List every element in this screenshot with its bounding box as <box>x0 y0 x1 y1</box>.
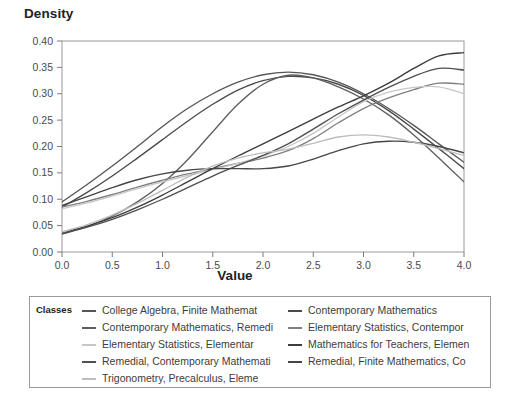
series-line <box>62 53 464 233</box>
series-line <box>62 135 464 232</box>
legend-item[interactable]: Contemporary Mathematics <box>288 302 488 319</box>
legend-item-label: Trigonometry, Precalculus, Eleme <box>102 372 258 385</box>
series-line <box>62 86 464 208</box>
legend-column-right: Contemporary MathematicsElementary Stati… <box>288 302 488 370</box>
legend-item[interactable]: Remedial, Finite Mathematics, Co <box>288 353 488 370</box>
legend-line-swatch <box>82 310 96 312</box>
legend-item-label: Elementary Statistics, Contempor <box>308 321 464 334</box>
legend-item-label: Mathematics for Teachers, Elemen <box>308 338 469 351</box>
series-line <box>62 83 464 207</box>
density-chart: Density 0.000.050.100.150.200.250.300.35… <box>0 0 526 407</box>
y-tick-label: 0.20 <box>33 140 54 152</box>
legend-item[interactable]: Contemporary Mathematics, Remedi <box>82 319 287 336</box>
legend-line-swatch <box>82 361 96 363</box>
legend-item[interactable]: Remedial, Contemporary Mathemati <box>82 353 287 370</box>
legend-line-swatch <box>82 378 96 380</box>
legend-line-swatch <box>288 310 302 312</box>
legend-item[interactable]: Elementary Statistics, Contempor <box>288 319 488 336</box>
y-tick-label: 0.40 <box>33 35 54 47</box>
series-line <box>62 141 464 205</box>
legend-item-label: Remedial, Contemporary Mathemati <box>102 355 271 368</box>
y-tick-label: 0.15 <box>33 166 54 178</box>
legend-item[interactable]: College Algebra, Finite Mathemat <box>82 302 287 319</box>
legend-line-swatch <box>288 361 302 363</box>
series-group <box>62 53 464 234</box>
legend-item[interactable]: Elementary Statistics, Elementar <box>82 336 287 353</box>
plot-frame <box>62 41 464 252</box>
legend-item[interactable]: Mathematics for Teachers, Elemen <box>288 336 488 353</box>
y-tick-label: 0.35 <box>33 61 54 73</box>
y-tick-label: 0.25 <box>33 114 54 126</box>
legend-item-label: Elementary Statistics, Elementar <box>102 338 254 351</box>
y-tick-label: 0.30 <box>33 87 54 99</box>
legend-item-label: Remedial, Finite Mathematics, Co <box>308 355 466 368</box>
legend-line-swatch <box>82 344 96 346</box>
legend-line-swatch <box>288 327 302 329</box>
legend-line-swatch <box>82 327 96 329</box>
legend-column-left: College Algebra, Finite MathematContempo… <box>82 302 287 387</box>
x-axis-title: Value <box>0 268 470 283</box>
y-tick-label: 0.05 <box>33 219 54 231</box>
legend-line-swatch <box>288 344 302 346</box>
legend-item-label: Contemporary Mathematics <box>308 304 437 317</box>
legend-title: Classes <box>36 304 72 315</box>
y-tick-label: 0.10 <box>33 193 54 205</box>
series-line <box>62 72 464 202</box>
y-tick-label: 0.00 <box>33 246 54 258</box>
legend-item[interactable]: Trigonometry, Precalculus, Eleme <box>82 370 287 387</box>
legend-item-label: College Algebra, Finite Mathemat <box>102 304 257 317</box>
legend-item-label: Contemporary Mathematics, Remedi <box>102 321 273 334</box>
legend: Classes College Algebra, Finite Mathemat… <box>29 296 491 388</box>
plot-area: 0.000.050.100.150.200.250.300.350.400.00… <box>0 0 526 300</box>
